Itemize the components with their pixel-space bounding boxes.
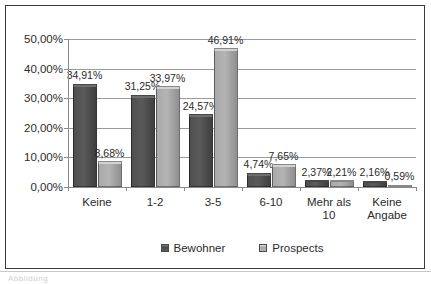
bar-bewohner-4 xyxy=(305,180,329,187)
bar-group: 2,37%2,21% xyxy=(300,39,358,187)
bar-bewohner-0 xyxy=(73,84,97,187)
x-axis-tick xyxy=(68,187,69,191)
bar-group: 34,91%8,68% xyxy=(68,39,126,187)
legend-item-bewohner[interactable]: Bewohner xyxy=(161,242,226,254)
data-label: 2,21% xyxy=(327,167,357,178)
data-label: 7,65% xyxy=(269,151,299,162)
legend-label: Prospects xyxy=(272,242,323,254)
y-axis-tick-label: 0,00% xyxy=(7,181,63,193)
y-axis-tick-label: 10,00% xyxy=(7,151,63,163)
chart-legend: BewohnerProspects xyxy=(68,242,416,254)
bar-bewohner-1 xyxy=(131,95,155,188)
bar-body xyxy=(247,176,271,187)
bar-body xyxy=(98,164,122,187)
data-label: 33,97% xyxy=(150,73,186,84)
x-axis-category-label: 1-2 xyxy=(126,196,184,209)
x-axis-category-label: Mehr als10 xyxy=(300,196,358,222)
x-axis-tick xyxy=(300,187,301,191)
data-label: 0,59% xyxy=(385,171,415,182)
data-label: 8,68% xyxy=(95,148,125,159)
bar-body xyxy=(189,117,213,187)
data-label: 46,91% xyxy=(208,35,244,46)
bar-body xyxy=(272,167,296,187)
x-axis-category-line: Keine xyxy=(358,196,416,209)
y-axis-tick-label: 20,00% xyxy=(7,122,63,134)
bar-body xyxy=(214,51,238,187)
x-axis-category-label: 6-10 xyxy=(242,196,300,209)
x-axis-category-line: 6-10 xyxy=(242,196,300,209)
x-axis-category-label: KeineAngabe xyxy=(358,196,416,222)
x-axis-category-line: Keine xyxy=(68,196,126,209)
y-axis-labels: 0,00%10,00%20,00%30,00%40,00%50,00% xyxy=(6,39,63,187)
x-axis-category-line: 10 xyxy=(300,209,358,222)
y-axis-tick-label: 30,00% xyxy=(7,92,63,104)
data-label: 34,91% xyxy=(67,70,103,81)
bar-bewohner-2 xyxy=(189,114,213,187)
legend-label: Bewohner xyxy=(174,242,226,254)
y-axis-tick-label: 50,00% xyxy=(7,33,63,45)
bar-body xyxy=(73,87,97,187)
bar-group: 24,57%46,91% xyxy=(184,39,242,187)
x-axis-tick xyxy=(416,187,417,191)
x-axis-tick xyxy=(242,187,243,191)
bar-group: 31,25%33,97% xyxy=(126,39,184,187)
x-axis-category-line: 1-2 xyxy=(126,196,184,209)
x-axis-tick xyxy=(126,187,127,191)
x-axis-category-line: Angabe xyxy=(358,209,416,222)
bar-body xyxy=(156,89,180,187)
bar-prospects-2 xyxy=(214,48,238,187)
legend-swatch-icon xyxy=(161,244,169,252)
x-axis-category-label: 3-5 xyxy=(184,196,242,209)
y-axis-tick-label: 40,00% xyxy=(7,63,63,75)
bar-group: 2,16%0,59% xyxy=(358,39,416,187)
y-axis-line xyxy=(68,39,69,187)
x-axis-tick xyxy=(184,187,185,191)
x-axis-tick xyxy=(358,187,359,191)
bar-body xyxy=(131,98,155,188)
bar-bewohner-3 xyxy=(247,173,271,187)
chart-frame: 0,00%10,00%20,00%30,00%40,00%50,00% 34,9… xyxy=(5,5,425,269)
bar-prospects-1 xyxy=(156,86,180,187)
bar-group: 4,74%7,65% xyxy=(242,39,300,187)
legend-item-prospects[interactable]: Prospects xyxy=(259,242,323,254)
x-axis-category-label: Keine xyxy=(68,196,126,209)
bar-prospects-3 xyxy=(272,164,296,187)
plot-area: 34,91%8,68%31,25%33,97%24,57%46,91%4,74%… xyxy=(68,39,416,187)
x-axis-category-line: Mehr als xyxy=(300,196,358,209)
page-edge-line xyxy=(0,271,431,272)
bar-prospects-0 xyxy=(98,161,122,187)
legend-swatch-icon xyxy=(259,244,267,252)
x-axis-category-line: 3-5 xyxy=(184,196,242,209)
caption-fragment: Abbildung xyxy=(8,274,48,283)
